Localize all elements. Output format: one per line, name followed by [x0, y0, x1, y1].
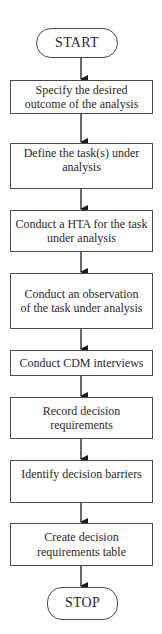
start-terminal: START	[36, 28, 118, 58]
step-specify-outcome: Specify the desired outcome of the analy…	[10, 80, 153, 114]
step-label: Conduct an observation of the task under…	[14, 287, 149, 316]
step-label: Define the task(s) under analysis	[14, 146, 149, 175]
step-label: Specify the desired outcome of the analy…	[14, 83, 149, 112]
step-label: Create decision requirements table	[14, 530, 149, 559]
stop-terminal: STOP	[47, 587, 118, 620]
step-record-decision-requirements: Record decision requirements	[10, 397, 153, 439]
start-label: START	[55, 36, 99, 51]
step-define-tasks: Define the task(s) under analysis	[10, 143, 153, 189]
step-conduct-hta: Conduct a HTA for the task under analysi…	[10, 210, 153, 252]
step-label: Conduct a HTA for the task under analysi…	[14, 217, 149, 246]
stop-label: STOP	[65, 596, 100, 611]
step-label: Identify decision barriers	[21, 467, 142, 482]
step-label: Conduct CDM interviews	[20, 356, 144, 371]
step-identify-decision-barriers: Identify decision barriers	[10, 460, 153, 503]
step-conduct-cdm-interviews: Conduct CDM interviews	[10, 350, 153, 376]
step-create-decision-requirements-table: Create decision requirements table	[10, 523, 153, 566]
step-conduct-observation: Conduct an observation of the task under…	[10, 273, 153, 329]
step-label: Record decision requirements	[14, 404, 149, 433]
